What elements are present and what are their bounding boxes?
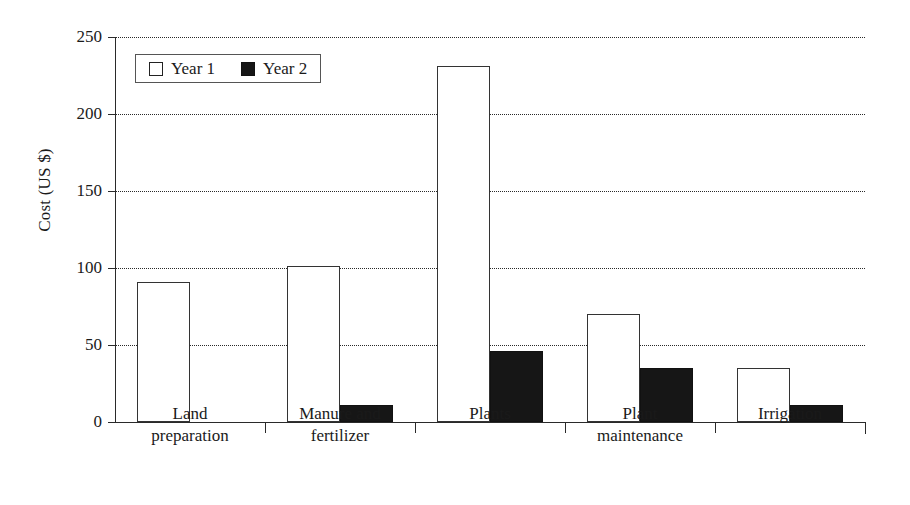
x-axis-label-1: Manure andfertilizer [265, 403, 415, 447]
y-tick-0: 0 [108, 422, 115, 423]
y-tick-150: 150 [108, 191, 115, 192]
y-tick-label-150: 150 [77, 181, 103, 201]
x-axis-end-tick [865, 422, 866, 434]
x-axis-label-1-line-1: fertilizer [265, 425, 415, 447]
y-tick-200: 200 [108, 114, 115, 115]
y-axis-title: Cost (US $) [35, 120, 55, 260]
x-axis-label-3: Plantmaintenance [565, 403, 715, 447]
gridline-150 [115, 191, 865, 192]
x-axis-label-0-line-0: Land [115, 403, 265, 425]
gridline-100 [115, 268, 865, 269]
gridline-250 [115, 37, 865, 38]
x-axis-label-4: Irrigation [715, 403, 865, 425]
x-axis-label-0-line-1: preparation [115, 425, 265, 447]
y-tick-100: 100 [108, 268, 115, 269]
x-axis-label-2-line-0: Plants [415, 403, 565, 425]
gridline-200 [115, 114, 865, 115]
y-axis-line [115, 37, 116, 422]
y-tick-label-100: 100 [77, 258, 103, 278]
legend-swatch-filled-square-icon [241, 62, 255, 76]
bar-year-1-2 [437, 66, 490, 422]
legend-label-year-1: Year 1 [171, 59, 215, 79]
legend-label-year-2: Year 2 [263, 59, 307, 79]
x-axis-label-0: Landpreparation [115, 403, 265, 447]
y-tick-250: 250 [108, 37, 115, 38]
x-axis-label-3-line-0: Plant [565, 403, 715, 425]
bar-chart: Cost (US $) 050100150200250 Landpreparat… [0, 0, 910, 505]
x-axis-label-3-line-1: maintenance [565, 425, 715, 447]
bar-year-1-1 [287, 266, 340, 422]
y-tick-50: 50 [108, 345, 115, 346]
x-axis-label-4-line-0: Irrigation [715, 403, 865, 425]
bar-year-1-0 [137, 282, 190, 422]
x-axis-label-2: Plants [415, 403, 565, 425]
legend-swatch-open-square-icon [149, 62, 163, 76]
y-tick-label-250: 250 [77, 27, 103, 47]
legend-item-year-2: Year 2 [241, 59, 307, 79]
y-tick-label-50: 50 [85, 335, 102, 355]
plot-area: 050100150200250 [115, 37, 865, 422]
chart-legend: Year 1 Year 2 [135, 54, 321, 83]
y-tick-label-0: 0 [94, 412, 103, 432]
gridline-50 [115, 345, 865, 346]
x-axis-label-1-line-0: Manure and [265, 403, 415, 425]
legend-item-year-1: Year 1 [149, 59, 215, 79]
y-tick-label-200: 200 [77, 104, 103, 124]
